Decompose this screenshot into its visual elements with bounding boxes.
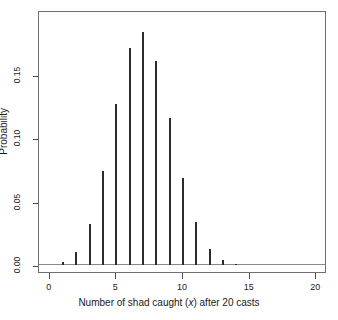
y-axis-tick-label: 0.10	[12, 125, 22, 151]
y-axis-title: Probability	[0, 108, 9, 155]
bar	[129, 48, 131, 265]
x-axis-tick-label: 15	[244, 282, 254, 292]
x-axis-title-prefix: Number of shad caught (	[78, 297, 188, 308]
bar	[89, 224, 91, 265]
x-axis-tick	[115, 273, 116, 279]
x-axis-tick-label: 5	[113, 282, 118, 292]
bar	[62, 262, 64, 265]
y-axis-tick-label: 0.00	[12, 252, 22, 278]
x-axis-tick	[182, 273, 183, 279]
bar	[222, 260, 224, 265]
bar	[142, 32, 144, 265]
x-axis-tick	[49, 273, 50, 279]
y-axis-tick-label: 0.15	[12, 62, 22, 88]
bar	[209, 249, 211, 265]
bar	[235, 264, 237, 265]
x-axis-tick-label: 10	[177, 282, 187, 292]
bar	[75, 252, 77, 265]
bar	[115, 104, 117, 265]
bar	[182, 178, 184, 265]
bar	[102, 171, 104, 265]
x-axis-tick-label: 0	[46, 282, 51, 292]
x-axis-title: Number of shad caught (x) after 20 casts	[0, 297, 338, 308]
x-axis-tick	[315, 273, 316, 279]
x-axis-tick-label: 20	[310, 282, 320, 292]
y-axis-tick-label: 0.05	[12, 189, 22, 215]
probability-distribution-figure: Probability 0.000.050.100.15 05101520 Nu…	[0, 0, 338, 320]
bar	[155, 61, 157, 265]
x-axis-title-suffix: ) after 20 casts	[193, 297, 259, 308]
bar	[195, 222, 197, 265]
plot-area	[39, 12, 325, 272]
plot-frame	[38, 11, 326, 273]
bar	[169, 118, 171, 265]
x-axis-tick	[249, 273, 250, 279]
